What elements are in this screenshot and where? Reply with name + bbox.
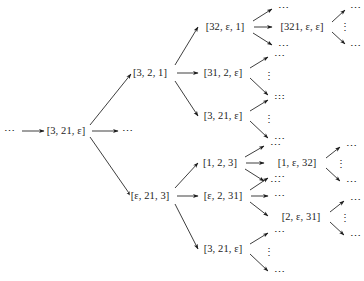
vertical-ellipsis-2: ⋮ — [264, 71, 274, 81]
node-upper-child-1: [31, 2, ε] — [203, 68, 244, 79]
node-upper-child-2: [3, 21, ε] — [203, 111, 244, 122]
lead-ellipsis: ⋯ — [4, 126, 16, 137]
leaf-ellipsis-18: ⋯ — [274, 267, 286, 278]
leaf-ellipsis-9: ⋯ — [270, 140, 282, 151]
node-lower-child-2: [3, 21, ε] — [203, 244, 244, 255]
figure-canvas: ⋯ [3, 21, ε] ⋯ [3, 2, 1] [32, ε, 1] [31,… — [0, 0, 364, 281]
leaf-ellipsis-5: ⋯ — [274, 51, 286, 62]
leaf-ellipsis-14: ⋯ — [274, 191, 286, 202]
node-upper-branch: [3, 2, 1] — [132, 68, 168, 79]
node-lower-child-1: [ε, 2, 31] — [203, 191, 244, 202]
node-upper-grandchild: [321, ε, ε] — [279, 22, 324, 33]
vertical-ellipsis-1: ⋮ — [340, 22, 350, 32]
leaf-ellipsis-7: ⋯ — [274, 94, 286, 105]
node-lower-branch: [ε, 21, 3] — [130, 191, 171, 202]
root-right-ellipsis: ⋯ — [122, 126, 134, 137]
leaf-ellipsis-16: ⋯ — [350, 231, 362, 242]
leaf-ellipsis-11: ⋯ — [346, 141, 358, 152]
node-root: [3, 21, ε] — [46, 126, 87, 137]
node-lower-grandchild-b: [2, ε, 31] — [281, 212, 322, 223]
leaf-ellipsis-17: ⋯ — [274, 227, 286, 238]
node-lower-grandchild-a: [1, ε, 32] — [277, 158, 318, 169]
tree-edges — [0, 0, 364, 281]
leaf-ellipsis-3: ⋯ — [350, 3, 362, 14]
node-lower-child-0: [1, 2, 3] — [202, 158, 238, 169]
leaf-ellipsis-15: ⋯ — [350, 195, 362, 206]
node-upper-child-0: [32, ε, 1] — [205, 22, 246, 33]
leaf-ellipsis-1: ⋯ — [278, 3, 290, 14]
vertical-ellipsis-5: ⋮ — [340, 213, 350, 223]
vertical-ellipsis-4: ⋮ — [336, 159, 346, 169]
vertical-ellipsis-6: ⋮ — [264, 247, 274, 257]
leaf-ellipsis-4: ⋯ — [350, 41, 362, 52]
leaf-ellipsis-12: ⋯ — [346, 177, 358, 188]
leaf-ellipsis-13: ⋯ — [274, 172, 286, 183]
vertical-ellipsis-3: ⋮ — [264, 114, 274, 124]
